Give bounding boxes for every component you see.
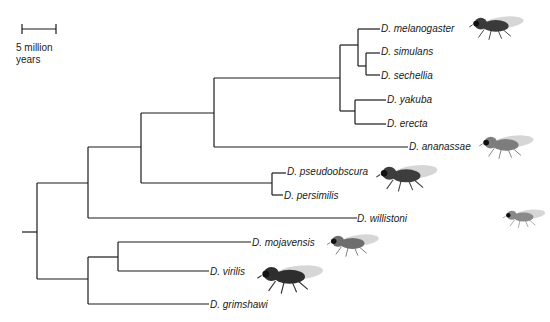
scale-bar-line2: years xyxy=(16,54,53,66)
mojavensis-fly-icon xyxy=(326,230,381,258)
tree-branches xyxy=(22,24,408,304)
ananassae-fly-icon xyxy=(478,131,536,160)
species-label: D. melanogaster xyxy=(381,23,454,35)
species-label: D. simulans xyxy=(381,46,433,58)
species-label: D. yakuba xyxy=(387,94,432,106)
willistoni-fly-icon xyxy=(502,206,547,229)
species-label: D. persimilis xyxy=(284,190,338,202)
species-label: D. virilis xyxy=(210,266,245,278)
pseudoobscura-fly-icon xyxy=(375,160,440,193)
species-label: D. sechellia xyxy=(381,70,433,82)
scale-bar xyxy=(22,24,56,34)
scale-bar-line1: 5 million xyxy=(16,42,53,54)
species-label: D. ananassae xyxy=(409,141,471,153)
species-label: D. grimshawi xyxy=(210,299,268,311)
scale-bar-label: 5 million years xyxy=(16,42,53,66)
virilis-fly-icon xyxy=(256,260,326,295)
species-label: D. mojavensis xyxy=(252,237,315,249)
species-label: D. erecta xyxy=(387,118,428,130)
species-label: D. pseudoobscura xyxy=(287,166,368,178)
species-label: D. willistoni xyxy=(357,213,407,225)
melanogaster-fly-icon xyxy=(468,12,526,41)
